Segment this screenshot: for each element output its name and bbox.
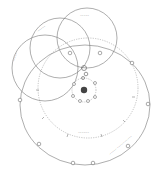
left-circle-label: ~~~~~ xyxy=(12,53,18,63)
dashed-orbit-ticks xyxy=(36,90,135,137)
central-body xyxy=(81,87,87,93)
upper-middle-circle-label: ~~~~~ xyxy=(37,25,46,33)
small-body-top-2 xyxy=(84,72,88,76)
upper-right-circle-label: ~~~~~ xyxy=(80,14,89,17)
dashed-orbit xyxy=(38,38,138,138)
upper-middle-circle xyxy=(30,18,90,78)
upper-right-circle xyxy=(57,8,117,68)
dashed-orbit-label: ~~~~~~ xyxy=(78,131,89,134)
orbital-diagram: ~~~~~ ~~~~~ ~~~~~ ~~~~~~ ~~~~~ ~~~~~ ~~~… xyxy=(0,0,162,178)
